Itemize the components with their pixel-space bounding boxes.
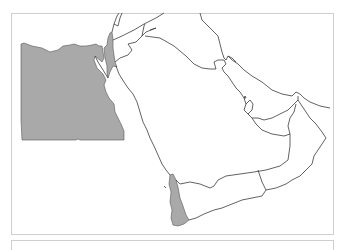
region-yemen-west[interactable] <box>169 174 189 226</box>
country-borders <box>95 13 330 220</box>
